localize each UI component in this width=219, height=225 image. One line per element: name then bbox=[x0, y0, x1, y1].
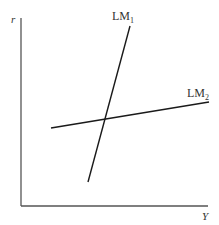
x-axis-label: Y bbox=[202, 210, 210, 222]
lm2-curve bbox=[51, 102, 209, 128]
lm1-label-subscript: 1 bbox=[130, 16, 134, 25]
axes bbox=[21, 18, 208, 206]
lm1-curve-group: LM1 bbox=[88, 9, 134, 182]
lm1-label: LM1 bbox=[112, 9, 134, 25]
lm1-curve bbox=[88, 26, 130, 182]
lm1-label-name: LM bbox=[112, 9, 130, 23]
y-axis-label: r bbox=[11, 13, 16, 25]
lm2-curve-group: LM2 bbox=[51, 86, 209, 128]
lm2-label: LM2 bbox=[187, 86, 209, 102]
lm2-label-subscript: 2 bbox=[205, 93, 209, 102]
lm-diagram: r Y LM1 LM2 bbox=[0, 0, 219, 225]
lm2-label-name: LM bbox=[187, 86, 205, 100]
